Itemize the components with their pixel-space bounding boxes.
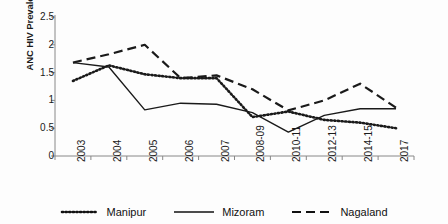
x-tick-label: 2003 bbox=[77, 140, 87, 162]
legend-label: Manipur bbox=[106, 206, 146, 218]
y-tick-label: 2 bbox=[28, 40, 54, 50]
series-line-manipur bbox=[73, 65, 396, 128]
y-tick-label: 1.5 bbox=[28, 68, 54, 78]
x-tick-label: 2012-13 bbox=[328, 125, 338, 162]
x-tick-label: 2008-09 bbox=[256, 125, 266, 162]
y-tick-label: 2.5 bbox=[28, 12, 54, 22]
anc-hiv-prevalence-line-chart: ANC HIV Prevalence ()% 00.511.522.5 2003… bbox=[0, 0, 448, 224]
x-tick-label: 2005 bbox=[149, 140, 159, 162]
y-tick-label: 1 bbox=[28, 95, 54, 105]
series-line-nagaland bbox=[73, 45, 396, 111]
y-axis-tick-labels: 00.511.522.5 bbox=[24, 0, 54, 224]
legend-item-mizoram[interactable]: Mizoram bbox=[172, 206, 264, 218]
x-tick-label: 2007 bbox=[221, 140, 231, 162]
x-tick-label: 2010-11 bbox=[292, 126, 302, 162]
y-tick-label: 0 bbox=[28, 151, 54, 161]
legend-swatch-dashed bbox=[290, 207, 334, 217]
legend-item-nagaland[interactable]: Nagaland bbox=[290, 206, 387, 218]
x-tick-label: 2004 bbox=[113, 140, 123, 162]
legend-swatch-solid bbox=[172, 207, 216, 217]
legend-label: Mizoram bbox=[222, 206, 264, 218]
x-tick-label: 2014-15 bbox=[364, 125, 374, 162]
plot-area bbox=[0, 0, 448, 224]
x-tick-label: 2017 bbox=[400, 140, 410, 162]
legend-item-manipur[interactable]: Manipur bbox=[60, 206, 146, 218]
x-tick-label: 2006 bbox=[185, 140, 195, 162]
chart-legend: ManipurMizoramNagaland bbox=[0, 206, 448, 218]
legend-label: Nagaland bbox=[340, 206, 387, 218]
legend-swatch-dotted bbox=[60, 207, 100, 217]
y-tick-label: 0.5 bbox=[28, 123, 54, 133]
